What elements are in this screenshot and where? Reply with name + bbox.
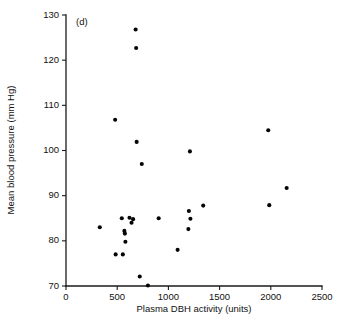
data-point bbox=[140, 162, 144, 166]
data-point bbox=[113, 118, 117, 122]
data-point bbox=[134, 27, 138, 31]
data-point bbox=[187, 209, 191, 213]
y-tick-label: 70 bbox=[48, 280, 59, 291]
y-axis-title: Mean blood pressure (mm Hg) bbox=[5, 86, 16, 215]
data-point bbox=[146, 284, 150, 288]
y-tick-label: 110 bbox=[44, 99, 59, 110]
data-point bbox=[129, 221, 133, 225]
y-tick-label: 120 bbox=[43, 54, 59, 65]
y-tick-label: 90 bbox=[48, 189, 59, 200]
data-point bbox=[157, 216, 161, 220]
data-point bbox=[186, 227, 190, 231]
x-tick-label: 1000 bbox=[158, 291, 179, 302]
data-point bbox=[123, 232, 127, 236]
y-tick-label: 100 bbox=[43, 144, 59, 155]
panel-label: (d) bbox=[76, 16, 88, 27]
data-point bbox=[266, 128, 270, 132]
x-tick-label: 500 bbox=[109, 291, 125, 302]
x-tick-label: 1500 bbox=[209, 291, 230, 302]
axes-group bbox=[66, 15, 322, 286]
scatter-plot-figure: 70809010011012013005001000150020002500 P… bbox=[0, 0, 349, 328]
y-tick-label: 80 bbox=[48, 234, 59, 245]
data-point bbox=[127, 216, 131, 220]
data-point bbox=[188, 217, 192, 221]
data-point bbox=[134, 46, 138, 50]
x-tick-label: 0 bbox=[63, 291, 68, 302]
plot-canvas: 70809010011012013005001000150020002500 P… bbox=[0, 0, 349, 328]
data-point bbox=[138, 274, 142, 278]
data-points-group bbox=[98, 27, 289, 287]
data-point bbox=[131, 217, 135, 221]
data-point bbox=[135, 140, 139, 144]
data-point bbox=[114, 252, 118, 256]
data-point bbox=[201, 204, 205, 208]
data-point bbox=[285, 186, 289, 190]
data-point bbox=[188, 149, 192, 153]
x-tick-label: 2000 bbox=[260, 291, 281, 302]
data-point bbox=[98, 225, 102, 229]
x-tick-label: 2500 bbox=[311, 291, 332, 302]
data-point bbox=[121, 252, 125, 256]
x-axis-title: Plasma DBH activity (units) bbox=[136, 303, 251, 314]
data-point bbox=[267, 203, 271, 207]
data-point bbox=[123, 240, 127, 244]
data-point bbox=[120, 216, 124, 220]
ticks-group: 70809010011012013005001000150020002500 bbox=[43, 9, 332, 303]
data-point bbox=[176, 248, 180, 252]
y-tick-label: 130 bbox=[43, 9, 59, 20]
